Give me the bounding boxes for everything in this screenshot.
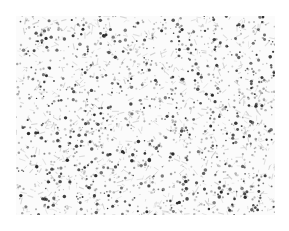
speckle-texture-image [16,16,275,215]
image-caption [60,216,230,226]
speckle-texture-canvas [16,16,275,215]
